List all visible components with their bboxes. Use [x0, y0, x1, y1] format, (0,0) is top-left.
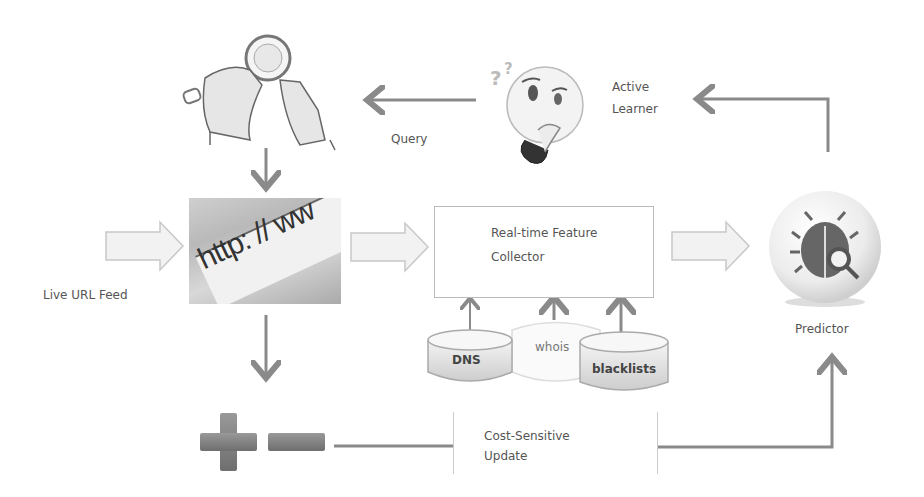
collector-to-predictor-block-arrow — [672, 222, 749, 270]
plus-icon — [200, 413, 257, 471]
url-to-collector-block-arrow — [351, 223, 428, 271]
update-to-predictor-arrow — [656, 360, 832, 447]
blacklists-label: blacklists — [592, 362, 656, 376]
browser-url-bar-icon: http: // ww — [189, 198, 341, 304]
blacklists-database-icon — [580, 332, 668, 390]
update-label-line1: Cost-Sensitive — [484, 426, 570, 446]
update-label-line2: Update — [484, 446, 570, 466]
predictor-label: Predictor — [795, 318, 849, 340]
thinking-face-icon: ? ? — [490, 60, 583, 164]
magnifier-hands-icon — [182, 36, 335, 150]
active-learner-label-line2: Learner — [612, 98, 658, 120]
bug-search-icon — [769, 191, 881, 307]
live-url-feed-label: Live URL Feed — [43, 284, 128, 306]
minus-icon — [268, 433, 325, 451]
active-learner-label: Active Learner — [612, 76, 658, 120]
cost-sensitive-update-box: Cost-Sensitive Update — [453, 412, 658, 474]
collector-label: Real-time Feature Collector — [491, 221, 597, 269]
active-learner-label-line1: Active — [612, 76, 658, 98]
collector-label-line1: Real-time Feature — [491, 221, 597, 245]
feature-collector-box: Real-time Feature Collector — [434, 206, 654, 298]
query-label: Query — [391, 128, 427, 150]
dns-label: DNS — [452, 353, 481, 367]
update-label: Cost-Sensitive Update — [484, 426, 570, 466]
svg-text:?: ? — [490, 66, 502, 90]
whois-label: whois — [535, 340, 569, 354]
collector-label-line2: Collector — [491, 245, 597, 269]
predictor-to-learner-arrow — [700, 99, 828, 152]
feed-block-arrow — [106, 222, 183, 270]
svg-text:?: ? — [504, 60, 513, 78]
